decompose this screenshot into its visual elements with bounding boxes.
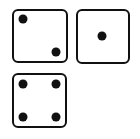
die-1-value-2 [12, 9, 68, 63]
die-2-value-1 [76, 9, 130, 64]
pip-dot-icon [19, 80, 28, 89]
pip-dot-icon [52, 80, 61, 89]
pip-dot-icon [52, 48, 61, 57]
pip-dot-icon [19, 113, 28, 122]
pip-dot-icon [98, 32, 107, 41]
die-3-value-4 [12, 73, 67, 128]
pip-dot-icon [52, 113, 61, 122]
pip-dot-icon [19, 15, 28, 24]
